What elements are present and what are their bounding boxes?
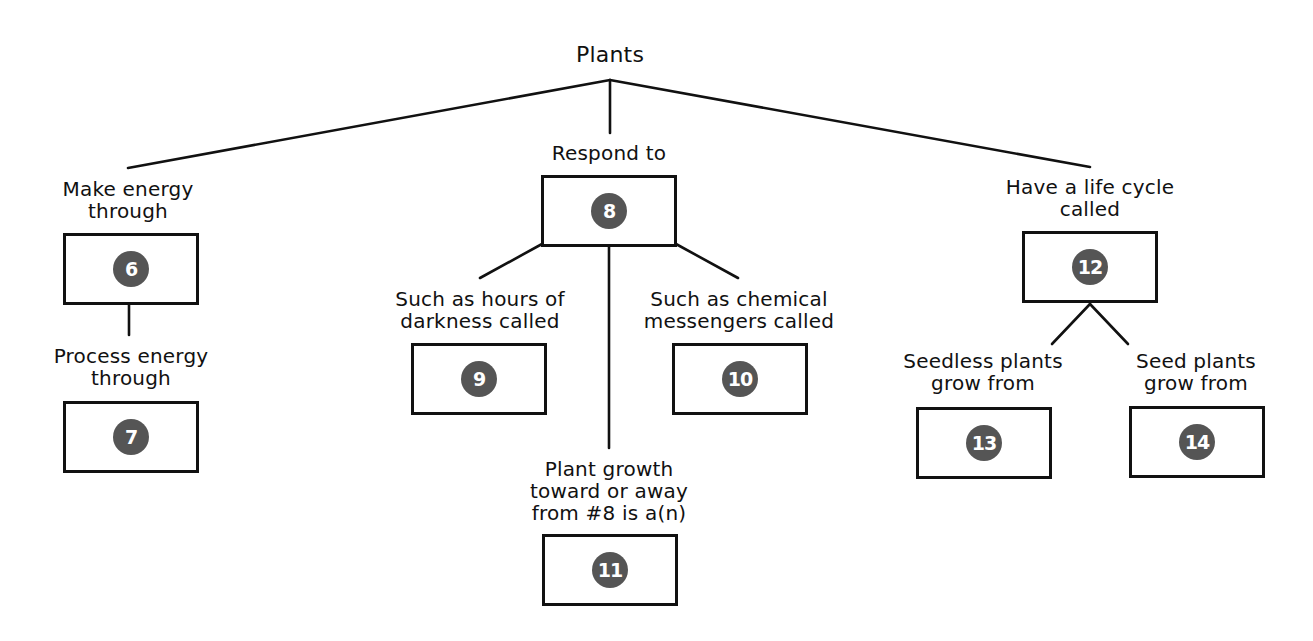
connector-12-seedless xyxy=(1052,304,1090,344)
number-badge: 8 xyxy=(591,193,627,229)
label-hours-of-darkness: Such as hours of darkness called xyxy=(395,288,565,332)
connector-plants-energy xyxy=(128,80,610,168)
connector-8-darkness xyxy=(480,244,542,278)
label-seed-plants: Seed plants grow from xyxy=(1136,350,1256,394)
answer-box-8[interactable]: 8 xyxy=(541,175,677,247)
label-chemical-messengers: Such as chemical messengers called xyxy=(644,288,834,332)
number-badge: 12 xyxy=(1072,249,1108,285)
answer-box-10[interactable]: 10 xyxy=(672,343,808,415)
answer-box-11[interactable]: 11 xyxy=(542,534,678,606)
number-badge: 10 xyxy=(722,361,758,397)
connector-12-seed xyxy=(1090,304,1128,344)
concept-map: Plants Make energy through 6 Process ene… xyxy=(0,0,1313,641)
label-plant-growth: Plant growth toward or away from #8 is a… xyxy=(530,458,688,524)
number-badge: 7 xyxy=(113,419,149,455)
number-badge: 11 xyxy=(592,552,628,588)
answer-box-12[interactable]: 12 xyxy=(1022,231,1158,303)
number-badge: 9 xyxy=(461,361,497,397)
root-title: Plants xyxy=(576,44,644,66)
answer-box-14[interactable]: 14 xyxy=(1129,406,1265,478)
number-badge: 6 xyxy=(113,251,149,287)
label-process-energy: Process energy through xyxy=(54,345,209,389)
connector-8-chemical xyxy=(676,244,738,278)
label-life-cycle: Have a life cycle called xyxy=(1006,176,1174,220)
label-seedless-plants: Seedless plants grow from xyxy=(903,350,1063,394)
label-make-energy: Make energy through xyxy=(63,178,194,222)
answer-box-6[interactable]: 6 xyxy=(63,233,199,305)
label-respond-to: Respond to xyxy=(552,142,666,164)
answer-box-13[interactable]: 13 xyxy=(916,407,1052,479)
connector-plants-lifecycle xyxy=(610,80,1090,167)
number-badge: 14 xyxy=(1179,424,1215,460)
answer-box-9[interactable]: 9 xyxy=(411,343,547,415)
number-badge: 13 xyxy=(966,425,1002,461)
answer-box-7[interactable]: 7 xyxy=(63,401,199,473)
